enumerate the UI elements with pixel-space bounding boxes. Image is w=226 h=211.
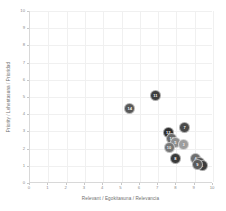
data-point-marker[interactable]: 10	[164, 142, 175, 153]
y-tick-mark	[27, 183, 29, 184]
y-tick-mark	[27, 114, 29, 115]
gridline-horizontal	[30, 97, 212, 98]
gridline-horizontal	[30, 114, 212, 115]
y-tick-mark	[27, 166, 29, 167]
x-tick-label: 4	[92, 185, 112, 191]
x-tick-label: 3	[74, 185, 94, 191]
x-tick-label: 6	[129, 185, 149, 191]
y-tick-label: 10	[0, 8, 25, 14]
y-tick-mark	[27, 63, 29, 64]
y-tick-label: 9	[0, 25, 25, 31]
x-tick-label: 2	[56, 185, 76, 191]
data-point-marker[interactable]: 14	[124, 103, 135, 114]
gridline-horizontal	[30, 28, 212, 29]
y-tick-label: 7	[0, 60, 25, 66]
x-tick-label: 7	[147, 185, 167, 191]
data-point-marker[interactable]: 3	[178, 139, 189, 150]
x-tick-label: 5	[111, 185, 131, 191]
gridline-horizontal	[30, 166, 212, 167]
y-tick-label: 8	[0, 42, 25, 48]
data-point-marker[interactable]: 8	[170, 153, 181, 164]
gridline-horizontal	[30, 11, 212, 12]
gridline-horizontal	[30, 45, 212, 46]
x-tick-label: 8	[165, 185, 185, 191]
gridline-horizontal	[30, 63, 212, 64]
x-axis-title: Relevant / Egokitasuna / Relevancia	[29, 196, 212, 201]
y-tick-mark	[27, 97, 29, 98]
y-tick-mark	[27, 28, 29, 29]
y-tick-label: 1	[0, 163, 25, 169]
y-tick-mark	[27, 149, 29, 150]
y-tick-label: 2	[0, 146, 25, 152]
y-tick-label: 6	[0, 77, 25, 83]
y-tick-label: 4	[0, 111, 25, 117]
y-tick-mark	[27, 11, 29, 12]
y-tick-label: 0	[0, 180, 25, 186]
data-point-marker[interactable]: 11	[150, 90, 161, 101]
x-tick-label: 1	[37, 185, 57, 191]
gridline-vertical	[213, 11, 214, 182]
y-tick-label: 5	[0, 94, 25, 100]
y-tick-mark	[27, 80, 29, 81]
y-tick-mark	[27, 45, 29, 46]
plot-area: 141171213531084219	[29, 11, 212, 183]
gridline-horizontal	[30, 80, 212, 81]
scatter-chart: 141171213531084219 Priority / Lehentasun…	[0, 0, 226, 211]
x-tick-label: 9	[184, 185, 204, 191]
y-tick-label: 3	[0, 128, 25, 134]
x-tick-label: 10	[202, 185, 222, 191]
y-tick-mark	[27, 131, 29, 132]
